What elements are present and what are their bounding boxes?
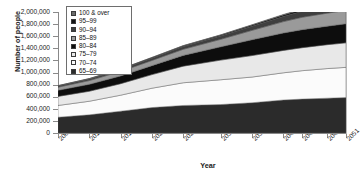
y-tick-label: 200,000 — [2, 118, 50, 125]
y-tick-label: 1,200,000 — [2, 57, 50, 64]
legend-swatch-icon — [71, 52, 76, 57]
legend-item: 75–79 — [71, 50, 131, 58]
legend-item: 85–89 — [71, 34, 131, 42]
y-tick-label: 2,000,000 — [2, 9, 50, 16]
legend-label: 75–79 — [79, 51, 97, 57]
y-tick-label: 1,600,000 — [2, 33, 50, 40]
y-tick-label: 400,000 — [2, 106, 50, 113]
legend-label: 70–74 — [79, 60, 97, 66]
legend-item: 90–94 — [71, 26, 131, 34]
y-tick-label: 600,000 — [2, 93, 50, 100]
x-tick-label: 2051 — [345, 127, 360, 142]
y-tick-label: 1,800,000 — [2, 21, 50, 28]
chart-figure: Number of people Year 2,000,0001,800,000… — [0, 0, 360, 179]
y-tick-label: 0 — [2, 130, 50, 137]
legend-label: 65–69 — [79, 68, 97, 74]
x-axis-line — [58, 133, 347, 134]
legend-swatch-icon — [71, 27, 76, 32]
legend-item: 65–69 — [71, 67, 131, 75]
legend-label: 90–94 — [79, 27, 97, 33]
chart-legend: 100 & over95–9990–9485–8980–8475–7970–74… — [66, 6, 132, 75]
y-tick-label: 1,000,000 — [2, 69, 50, 76]
legend-item: 100 & over — [71, 9, 131, 17]
legend-swatch-icon — [71, 11, 76, 16]
legend-swatch-icon — [71, 60, 76, 65]
legend-item: 70–74 — [71, 59, 131, 67]
plot-right-border — [346, 12, 347, 134]
legend-item: 95–99 — [71, 17, 131, 25]
y-tick-label: 800,000 — [2, 81, 50, 88]
x-axis-title: Year — [58, 161, 358, 170]
legend-swatch-icon — [71, 44, 76, 49]
legend-label: 80–84 — [79, 43, 97, 49]
legend-swatch-icon — [71, 36, 76, 41]
legend-label: 100 & over — [79, 10, 109, 16]
legend-item: 80–84 — [71, 42, 131, 50]
y-tick-label: 1,400,000 — [2, 45, 50, 52]
legend-swatch-icon — [71, 69, 76, 74]
legend-swatch-icon — [71, 19, 76, 24]
legend-label: 95–99 — [79, 18, 97, 24]
legend-label: 85–89 — [79, 35, 97, 41]
